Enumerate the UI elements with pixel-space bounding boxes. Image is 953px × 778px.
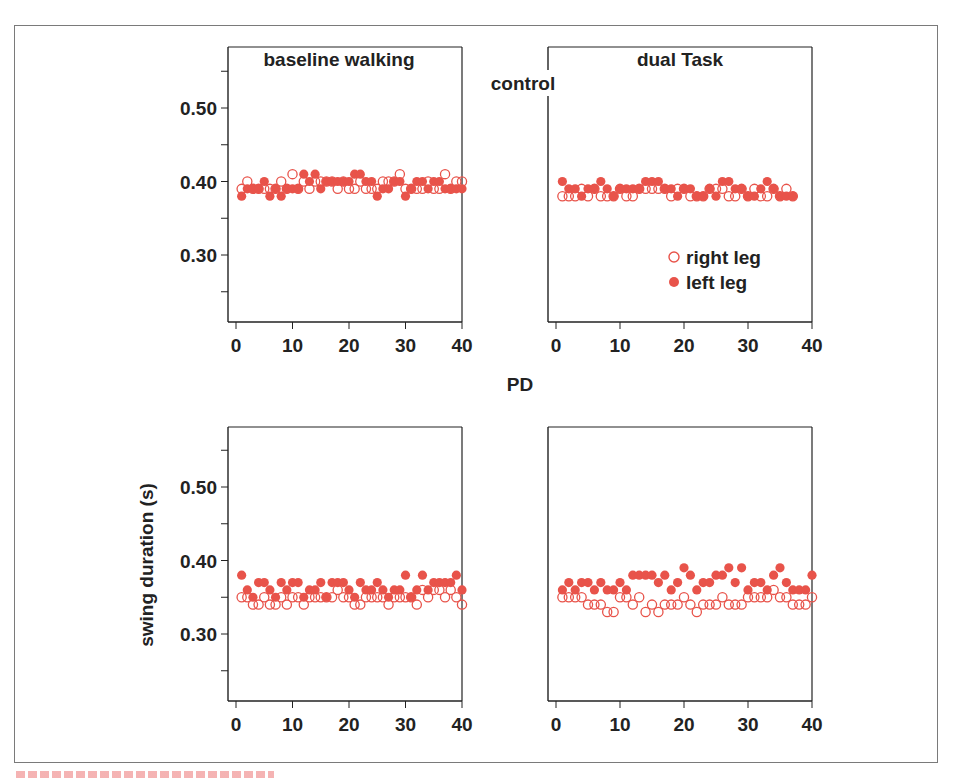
x-tick-label: 10 xyxy=(282,714,303,735)
right-leg-point xyxy=(609,607,618,616)
x-tick-label: 20 xyxy=(673,335,694,356)
left-leg-point xyxy=(254,184,263,193)
left-leg-point xyxy=(705,184,714,193)
left-leg-point xyxy=(424,585,433,594)
left-leg-point xyxy=(596,578,605,587)
x-tick-label: 30 xyxy=(395,714,416,735)
left-leg-point xyxy=(667,585,676,594)
left-leg-point xyxy=(282,585,291,594)
left-leg-point xyxy=(673,192,682,201)
left-leg-point xyxy=(271,184,280,193)
left-leg-point xyxy=(260,177,269,186)
left-leg-point xyxy=(367,177,376,186)
left-leg-point xyxy=(660,571,669,580)
left-leg-point xyxy=(277,578,286,587)
scatter-panel-3: 0.500.400.30010203040 xyxy=(180,427,473,735)
left-leg-point xyxy=(705,578,714,587)
left-leg-point xyxy=(407,184,416,193)
left-leg-point xyxy=(384,593,393,602)
x-tick-label: 0 xyxy=(551,335,562,356)
x-tick-label: 10 xyxy=(609,335,630,356)
x-tick-label: 40 xyxy=(451,335,472,356)
group-label-pd: PD xyxy=(507,374,533,395)
scatter-panel-4: 010203040 xyxy=(548,427,823,735)
left-leg-point xyxy=(558,177,567,186)
left-leg-point xyxy=(446,578,455,587)
left-leg-point xyxy=(763,177,772,186)
left-leg-point xyxy=(622,585,631,594)
left-leg-point xyxy=(743,585,752,594)
left-leg-point xyxy=(311,585,320,594)
left-leg-point xyxy=(583,578,592,587)
figure-caption-clipped xyxy=(16,771,274,778)
left-leg-point xyxy=(299,170,308,179)
left-leg-point xyxy=(756,184,765,193)
left-leg-point xyxy=(424,184,433,193)
right-leg-point xyxy=(288,170,297,179)
left-leg-point xyxy=(277,192,286,201)
right-leg-point xyxy=(635,593,644,602)
scatter-panel-1: 0.500.400.30010203040 xyxy=(180,47,473,356)
y-tick-label: 0.30 xyxy=(180,245,217,266)
left-leg-point xyxy=(418,571,427,580)
left-leg-point xyxy=(457,585,466,594)
left-leg-point xyxy=(435,177,444,186)
left-leg-point xyxy=(457,184,466,193)
left-leg-point xyxy=(344,177,353,186)
left-leg-point xyxy=(679,563,688,572)
y-tick-label: 0.40 xyxy=(180,551,217,572)
left-leg-point xyxy=(311,170,320,179)
left-leg-point xyxy=(654,578,663,587)
left-leg-point xyxy=(756,578,765,587)
legend-filled-circle-icon xyxy=(669,277,679,287)
left-leg-point xyxy=(395,585,404,594)
x-tick-label: 10 xyxy=(609,714,630,735)
left-leg-point xyxy=(692,585,701,594)
left-leg-point xyxy=(373,578,382,587)
left-leg-point xyxy=(378,585,387,594)
left-leg-point xyxy=(603,184,612,193)
left-leg-point xyxy=(577,192,586,201)
left-leg-point xyxy=(801,585,810,594)
left-leg-point xyxy=(686,184,695,193)
left-leg-point xyxy=(373,192,382,201)
left-leg-point xyxy=(807,571,816,580)
left-leg-point xyxy=(609,192,618,201)
right-leg-point xyxy=(440,170,449,179)
left-leg-point xyxy=(316,184,325,193)
left-leg-point xyxy=(667,184,676,193)
left-leg-point xyxy=(395,177,404,186)
x-tick-label: 20 xyxy=(338,335,359,356)
x-tick-label: 40 xyxy=(451,714,472,735)
left-leg-point xyxy=(609,585,618,594)
panel-title-baseline: baseline walking xyxy=(264,49,415,70)
left-leg-point xyxy=(558,585,567,594)
left-leg-point xyxy=(237,571,246,580)
legend: right leg left leg xyxy=(669,247,761,293)
y-tick-label: 0.50 xyxy=(180,98,217,119)
scatter-figure: 0.500.400.300102030400102030400.500.400.… xyxy=(0,0,953,778)
left-leg-point xyxy=(367,585,376,594)
left-leg-point xyxy=(590,184,599,193)
legend-right-leg: right leg xyxy=(686,247,761,268)
left-leg-point xyxy=(571,585,580,594)
left-leg-point xyxy=(654,177,663,186)
left-leg-point xyxy=(316,578,325,587)
left-leg-point xyxy=(248,593,257,602)
x-tick-label: 0 xyxy=(551,714,562,735)
legend-open-circle-icon xyxy=(669,252,679,262)
left-leg-point xyxy=(596,177,605,186)
x-tick-label: 0 xyxy=(231,714,242,735)
left-leg-point xyxy=(294,578,303,587)
left-leg-point xyxy=(407,593,416,602)
legend-left-leg: left leg xyxy=(686,272,747,293)
x-tick-label: 30 xyxy=(737,335,758,356)
left-leg-point xyxy=(418,177,427,186)
left-leg-point xyxy=(237,192,246,201)
left-leg-point xyxy=(635,184,644,193)
left-leg-point xyxy=(294,184,303,193)
left-leg-point xyxy=(750,192,759,201)
left-leg-point xyxy=(401,571,410,580)
left-leg-point xyxy=(271,593,280,602)
left-leg-point xyxy=(615,578,624,587)
